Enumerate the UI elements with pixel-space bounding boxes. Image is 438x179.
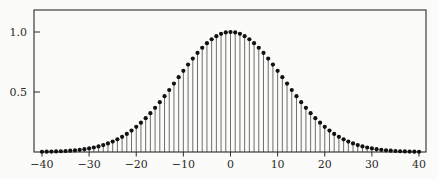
- stem-marker-dot: [82, 147, 86, 151]
- stem-marker-dot: [162, 94, 166, 98]
- stem-marker-dot: [115, 137, 119, 141]
- stem-marker-dot: [205, 41, 209, 45]
- stem-marker-dot: [40, 150, 44, 154]
- stem-marker-dot: [276, 69, 280, 73]
- stem-marker-dot: [49, 149, 53, 153]
- stem-marker-dot: [299, 100, 303, 104]
- stem-marker-dot: [384, 148, 388, 152]
- stem-marker-dot: [285, 82, 289, 86]
- stem-marker-dot: [181, 69, 185, 73]
- stem-marker-dot: [210, 37, 214, 41]
- x-tick-label: 10: [271, 158, 285, 171]
- stem-marker-dot: [356, 143, 360, 147]
- stem-marker-dot: [257, 46, 261, 50]
- stem-marker-dot: [323, 125, 327, 129]
- stem-marker-dot: [87, 146, 91, 150]
- stem-marker-dot: [318, 121, 322, 125]
- stem-marker-dot: [243, 34, 247, 38]
- stem-marker-dot: [68, 149, 72, 153]
- stem-marker-dot: [92, 145, 96, 149]
- stem-marker-dot: [313, 116, 317, 120]
- stem-marker-dot: [101, 143, 105, 147]
- stem-marker-dot: [398, 149, 402, 153]
- stem-marker-dot: [233, 30, 237, 34]
- stem-marker-dot: [219, 32, 223, 36]
- stem-marker-dot: [290, 88, 294, 92]
- stem-marker-dot: [412, 150, 416, 154]
- stem-marker-dot: [73, 148, 77, 152]
- x-tick-label: 0: [227, 158, 234, 171]
- stem-marker-dot: [365, 145, 369, 149]
- stem-marker-dot: [327, 128, 331, 132]
- x-tick-label: −40: [30, 158, 53, 171]
- stem-marker-dot: [78, 148, 82, 152]
- stem-marker-dot: [309, 111, 313, 115]
- stem-marker-dot: [247, 37, 251, 41]
- stem-marker-dot: [129, 128, 133, 132]
- stem-marker-dot: [360, 144, 364, 148]
- stem-marker-dot: [238, 32, 242, 36]
- stem-marker-dot: [111, 139, 115, 143]
- stem-marker-dot: [134, 125, 138, 129]
- stem-marker-dot: [266, 56, 270, 60]
- x-tick-label: −30: [78, 158, 101, 171]
- stem-marker-dot: [271, 62, 275, 66]
- x-tick-label: −20: [125, 158, 148, 171]
- stem-marker-dot: [379, 148, 383, 152]
- stem-marker-dot: [96, 144, 100, 148]
- stem-marker-dot: [153, 106, 157, 110]
- y-tick-label: 0.5: [10, 86, 28, 99]
- stem-marker-dot: [200, 46, 204, 50]
- stem-marker-dot: [375, 147, 379, 151]
- stem-plot-svg: −40−30−20−100102030400.51.0: [0, 0, 438, 179]
- stem-marker-dot: [177, 75, 181, 79]
- x-tick-label: −10: [172, 158, 195, 171]
- stem-marker-dot: [351, 141, 355, 145]
- stem-marker-dot: [332, 132, 336, 136]
- stem-marker-dot: [63, 149, 67, 153]
- stem-marker-dot: [342, 137, 346, 141]
- stem-marker-dot: [346, 139, 350, 143]
- stem-marker-dot: [417, 150, 421, 154]
- stem-plot-figure: −40−30−20−100102030400.51.0: [0, 0, 438, 179]
- stem-marker-dot: [125, 132, 129, 136]
- stem-marker-dot: [59, 149, 63, 153]
- stem-marker-dot: [370, 146, 374, 150]
- x-tick-label: 40: [412, 158, 426, 171]
- stem-marker-dot: [214, 34, 218, 38]
- stem-marker-dot: [389, 149, 393, 153]
- stem-marker-dot: [191, 56, 195, 60]
- stem-marker-dot: [106, 141, 110, 145]
- stem-marker-dot: [252, 41, 256, 45]
- stem-marker-dot: [337, 135, 341, 139]
- stem-marker-dot: [148, 111, 152, 115]
- stem-marker-dot: [280, 75, 284, 79]
- stem-marker-dot: [120, 135, 124, 139]
- stem-marker-dot: [393, 149, 397, 153]
- stem-marker-dot: [403, 149, 407, 153]
- stem-marker-dot: [261, 51, 265, 55]
- stem-marker-dot: [195, 51, 199, 55]
- stem-marker-dot: [224, 30, 228, 34]
- x-tick-label: 30: [365, 158, 379, 171]
- stem-marker-dot: [167, 88, 171, 92]
- stem-marker-dot: [304, 106, 308, 110]
- stem-marker-dot: [172, 82, 176, 86]
- stem-marker-dot: [294, 94, 298, 98]
- stem-marker-dot: [228, 30, 232, 34]
- x-tick-label: 20: [318, 158, 332, 171]
- stem-marker-dot: [158, 100, 162, 104]
- stem-marker-dot: [144, 116, 148, 120]
- stem-marker-dot: [139, 121, 143, 125]
- stem-marker-dot: [407, 149, 411, 153]
- stem-marker-dot: [54, 149, 58, 153]
- y-tick-label: 1.0: [10, 26, 28, 39]
- stem-marker-dot: [186, 62, 190, 66]
- stem-marker-dot: [45, 150, 49, 154]
